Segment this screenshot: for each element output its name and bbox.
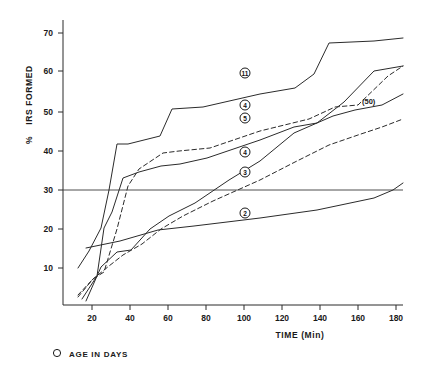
series-marker-4-upper: 4 — [240, 100, 250, 110]
series-line-3 — [78, 119, 403, 297]
x-tick-160: 160 — [351, 305, 365, 323]
series-marker-label: 3 — [243, 169, 247, 176]
line-chart-svg: 70 60 50 40 30 20 — [0, 0, 427, 376]
series-markers-group: 11 4 5 4 3 2 — [240, 68, 250, 218]
legend-label: AGE IN DAYS — [69, 350, 128, 359]
y-axis-percent-symbol: % — [24, 136, 34, 144]
x-tick-40: 40 — [125, 305, 135, 323]
series-marker-label: 4 — [243, 102, 247, 109]
chart-figure: 70 60 50 40 30 20 — [0, 0, 427, 376]
series-marker-3: 3 — [240, 167, 250, 177]
y-tick-label: 70 — [44, 28, 54, 38]
y-axis-title: IRS FORMED — [24, 65, 34, 124]
x-tick-60: 60 — [163, 305, 173, 323]
x-axis-title: TIME (Min) — [276, 330, 325, 340]
x-tick-label: 60 — [163, 313, 173, 323]
x-tick-140: 140 — [313, 305, 327, 323]
x-tick-120: 120 — [275, 305, 289, 323]
y-tick-label: 20 — [44, 224, 54, 234]
series-marker-11: 11 — [240, 68, 250, 78]
y-tick-60: 60 — [44, 66, 63, 76]
open-circle-icon — [53, 349, 60, 356]
y-tick-10: 10 — [44, 263, 63, 273]
y-tick-30: 30 — [44, 185, 63, 195]
y-tick-label: 30 — [44, 185, 54, 195]
y-tick-20: 20 — [44, 224, 63, 234]
y-tick-40: 40 — [44, 146, 63, 156]
y-tick-label: 60 — [44, 66, 54, 76]
y-tick-label: 10 — [44, 263, 54, 273]
annotation-50: (50) — [362, 97, 376, 106]
x-tick-label: 20 — [87, 313, 97, 323]
x-tick-100: 100 — [237, 305, 251, 323]
series-marker-label: 2 — [243, 210, 247, 217]
x-tick-label: 120 — [275, 313, 289, 323]
series-marker-label: 5 — [243, 115, 247, 122]
y-tick-70: 70 — [44, 28, 63, 38]
series-line-4-lower — [86, 94, 403, 301]
x-tick-label: 140 — [313, 313, 327, 323]
x-tick-80: 80 — [201, 305, 211, 323]
x-tick-label: 180 — [389, 313, 403, 323]
x-tick-20: 20 — [87, 305, 97, 323]
x-tick-180: 180 — [389, 305, 403, 323]
x-tick-label: 160 — [351, 313, 365, 323]
y-tick-label: 50 — [44, 107, 54, 117]
series-marker-label: 4 — [243, 149, 247, 156]
x-tick-label: 80 — [201, 313, 211, 323]
legend: AGE IN DAYS — [53, 349, 128, 358]
series-line-4-upper — [78, 66, 403, 295]
y-tick-label: 40 — [44, 146, 54, 156]
series-marker-2: 2 — [240, 208, 250, 218]
series-marker-5: 5 — [240, 113, 250, 123]
y-tick-50: 50 — [44, 107, 63, 117]
x-tick-label: 100 — [237, 313, 251, 323]
series-marker-label: 11 — [242, 70, 249, 77]
y-ticks-group: 70 60 50 40 30 20 — [44, 28, 63, 273]
series-marker-4-lower: 4 — [240, 147, 250, 157]
x-ticks-group: 20 40 60 80 100 120 — [87, 305, 403, 323]
x-tick-label: 40 — [125, 313, 135, 323]
